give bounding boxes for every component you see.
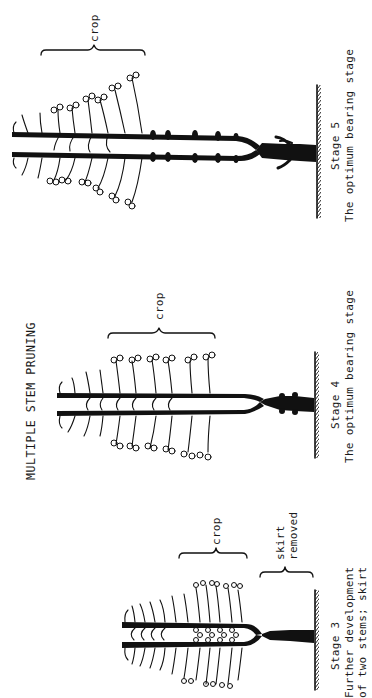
- stage3-caption-line2: of two stems; skirt: [356, 566, 369, 698]
- stage3-skirt-label-line2: removed: [287, 512, 300, 560]
- stage5-label: Stage 5: [329, 122, 342, 170]
- figure-title: MULTIPLE STEM PRUNING: [25, 322, 38, 480]
- stage5-drawing: [12, 45, 321, 218]
- stage3-caption-line1: Further development: [343, 566, 356, 698]
- stage5-caption: The optimum bearing stage: [343, 49, 356, 222]
- pruning-diagram: [0, 0, 372, 698]
- stage4-label: Stage 4: [329, 381, 342, 429]
- stage4-crop-label: crop: [153, 292, 166, 320]
- stage3-label: Stage 3: [329, 622, 342, 670]
- stage4-drawing: [57, 328, 319, 460]
- stage3-skirt-label-line1: skirt: [274, 525, 287, 560]
- stage3-crop-label: crop: [210, 517, 223, 545]
- stage3-drawing: [122, 548, 319, 690]
- stage5-crop-label: crop: [88, 14, 101, 42]
- stage4-caption: The optimum bearing stage: [343, 290, 356, 463]
